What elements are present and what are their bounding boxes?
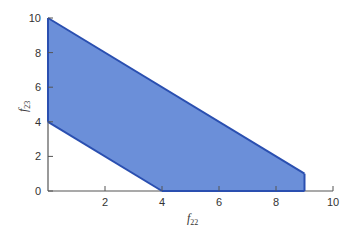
feasible-region xyxy=(48,18,305,191)
y-tick-label: 6 xyxy=(35,81,41,93)
y-tick-label: 8 xyxy=(35,47,41,59)
y-tick-label: 0 xyxy=(35,185,41,197)
x-tick-label: 2 xyxy=(102,196,108,208)
y-axis-label: f23 xyxy=(16,101,32,112)
y-tick-label: 4 xyxy=(35,116,41,128)
feasible-region-chart: 2468100246810f22f23 xyxy=(0,0,354,233)
x-tick-label: 8 xyxy=(273,196,279,208)
plot-area: 2468100246810f22f23 xyxy=(16,12,339,227)
x-axis-label: f22 xyxy=(187,211,198,227)
x-tick-label: 4 xyxy=(159,196,165,208)
y-tick-label: 2 xyxy=(35,150,41,162)
x-tick-label: 6 xyxy=(216,196,222,208)
x-tick-label: 10 xyxy=(327,196,339,208)
y-tick-label: 10 xyxy=(29,12,41,24)
